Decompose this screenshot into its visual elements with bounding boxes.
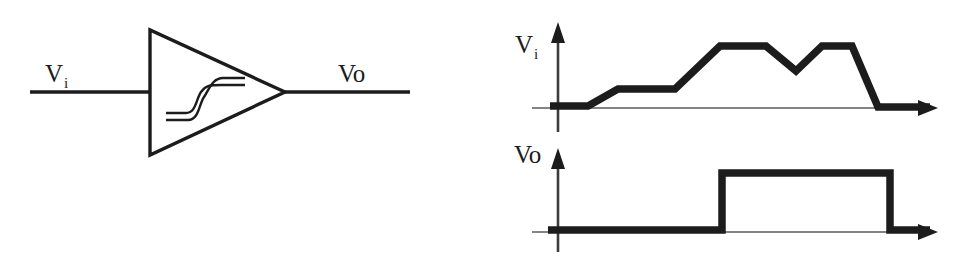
input-y-axis-arrowhead xyxy=(551,22,565,43)
hysteresis-icon-inner xyxy=(166,85,245,113)
symbol-input-label-subscript: i xyxy=(64,75,68,91)
buffer-triangle xyxy=(150,30,285,155)
schmitt-trigger-symbol-panel: Vi Vo xyxy=(0,0,470,264)
input-plot-axis-label: Vi xyxy=(515,32,537,57)
waveform-drawing xyxy=(470,0,958,264)
symbol-drawing xyxy=(0,0,470,264)
output-y-axis-arrowhead xyxy=(551,148,565,169)
waveform-panel: Vi Vo xyxy=(470,0,958,264)
input-waveform-trace xyxy=(550,46,930,107)
symbol-output-label: Vo xyxy=(338,61,365,86)
output-plot-axis-label: Vo xyxy=(514,142,541,167)
input-plot-axis-label-text: V xyxy=(515,31,533,58)
input-plot xyxy=(532,22,938,132)
schmitt-trigger-figure: Vi Vo xyxy=(0,0,958,264)
output-waveform-trace xyxy=(548,173,930,230)
input-plot-axis-label-subscript: i xyxy=(534,46,538,62)
output-plot xyxy=(532,148,938,252)
symbol-input-label: Vi xyxy=(45,61,67,86)
symbol-input-label-text: V xyxy=(45,60,63,87)
